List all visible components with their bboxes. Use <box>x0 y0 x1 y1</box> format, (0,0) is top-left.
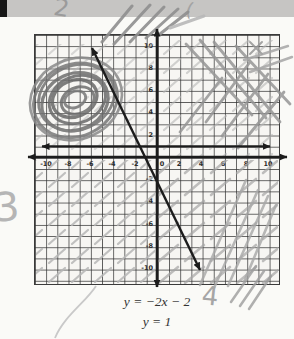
x-tick: -6 <box>83 160 97 168</box>
y-tick: -4 <box>138 197 153 205</box>
scan-corner-artifact <box>0 0 7 17</box>
y-tick: 2 <box>138 131 153 139</box>
y-tick: 6 <box>138 86 153 94</box>
handwritten-2: 2 <box>52 0 71 23</box>
x-tick: 4 <box>194 160 208 168</box>
y-tick: -6 <box>138 220 153 228</box>
x-tick: 6 <box>216 160 230 168</box>
x-tick: 10 <box>261 160 275 168</box>
handwritten-3-left-margin: 3 <box>0 183 21 231</box>
scanned-worksheet: 2 ( 3 4 -10 -8 -6 -4 -2 0 2 4 6 8 10 10 … <box>0 0 294 339</box>
y-tick: -10 <box>138 264 153 272</box>
x-tick: -2 <box>128 160 142 168</box>
x-tick: 2 <box>172 160 186 168</box>
y-tick: -8 <box>138 242 153 250</box>
x-tick: -10 <box>39 160 53 168</box>
y-tick: 4 <box>138 108 153 116</box>
y-tick: 8 <box>138 64 153 72</box>
equation-line-1: y = −2x − 2 <box>20 294 294 310</box>
x-tick: -8 <box>61 160 75 168</box>
x-tick: 0 <box>155 160 169 168</box>
x-tick: 8 <box>239 160 253 168</box>
equation-line-2: y = 1 <box>20 314 294 330</box>
y-tick: -2 <box>138 175 153 183</box>
scan-top-band <box>0 0 294 17</box>
y-tick: 10 <box>138 42 153 50</box>
x-tick: -4 <box>105 160 119 168</box>
